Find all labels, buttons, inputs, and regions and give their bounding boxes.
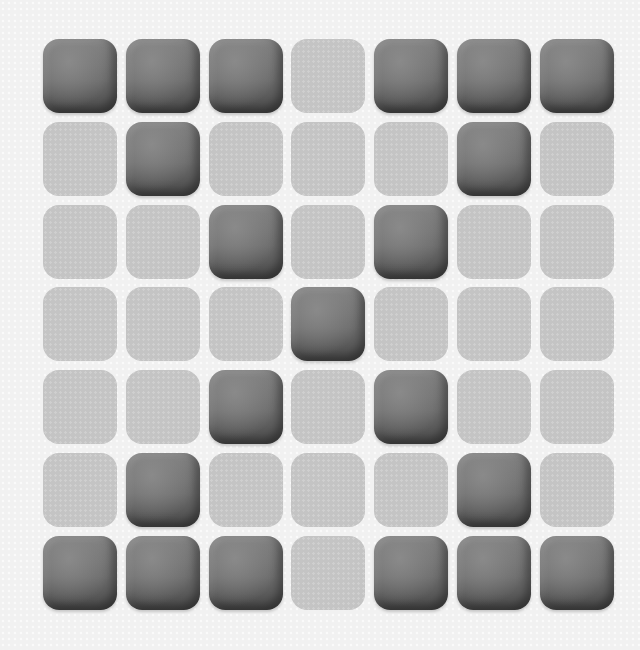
tile-r6-c0[interactable] (43, 536, 117, 610)
tile-r5-c2[interactable] (209, 453, 283, 527)
tile-r0-c2[interactable] (209, 39, 283, 113)
tile-r2-c3[interactable] (291, 205, 365, 279)
tile-r2-c5[interactable] (457, 205, 531, 279)
tile-r3-c5[interactable] (457, 287, 531, 361)
tile-r0-c0[interactable] (43, 39, 117, 113)
tile-r3-c2[interactable] (209, 287, 283, 361)
tile-r1-c0[interactable] (43, 122, 117, 196)
tile-r1-c6[interactable] (540, 122, 614, 196)
tile-r5-c0[interactable] (43, 453, 117, 527)
tile-r1-c3[interactable] (291, 122, 365, 196)
tile-r0-c5[interactable] (457, 39, 531, 113)
tile-r5-c6[interactable] (540, 453, 614, 527)
tile-r5-c3[interactable] (291, 453, 365, 527)
tile-r0-c6[interactable] (540, 39, 614, 113)
tile-r1-c1[interactable] (126, 122, 200, 196)
tile-r6-c3[interactable] (291, 536, 365, 610)
tile-r0-c4[interactable] (374, 39, 448, 113)
game-board (43, 39, 614, 610)
tile-r4-c3[interactable] (291, 370, 365, 444)
tile-r5-c1[interactable] (126, 453, 200, 527)
tile-r4-c6[interactable] (540, 370, 614, 444)
tile-r4-c5[interactable] (457, 370, 531, 444)
tile-r4-c0[interactable] (43, 370, 117, 444)
tile-r2-c6[interactable] (540, 205, 614, 279)
tile-r5-c4[interactable] (374, 453, 448, 527)
tile-r4-c2[interactable] (209, 370, 283, 444)
tile-r4-c1[interactable] (126, 370, 200, 444)
tile-r3-c6[interactable] (540, 287, 614, 361)
tile-r4-c4[interactable] (374, 370, 448, 444)
tile-r3-c3[interactable] (291, 287, 365, 361)
tile-r2-c4[interactable] (374, 205, 448, 279)
tile-r6-c5[interactable] (457, 536, 531, 610)
tile-r6-c2[interactable] (209, 536, 283, 610)
tile-r1-c4[interactable] (374, 122, 448, 196)
tile-r6-c1[interactable] (126, 536, 200, 610)
tile-r6-c4[interactable] (374, 536, 448, 610)
tile-r6-c6[interactable] (540, 536, 614, 610)
tile-r2-c0[interactable] (43, 205, 117, 279)
tile-r0-c1[interactable] (126, 39, 200, 113)
tile-r3-c4[interactable] (374, 287, 448, 361)
tile-r0-c3[interactable] (291, 39, 365, 113)
tile-r3-c1[interactable] (126, 287, 200, 361)
tile-r1-c2[interactable] (209, 122, 283, 196)
tile-r5-c5[interactable] (457, 453, 531, 527)
tile-r3-c0[interactable] (43, 287, 117, 361)
tile-r2-c1[interactable] (126, 205, 200, 279)
tile-r2-c2[interactable] (209, 205, 283, 279)
tile-r1-c5[interactable] (457, 122, 531, 196)
